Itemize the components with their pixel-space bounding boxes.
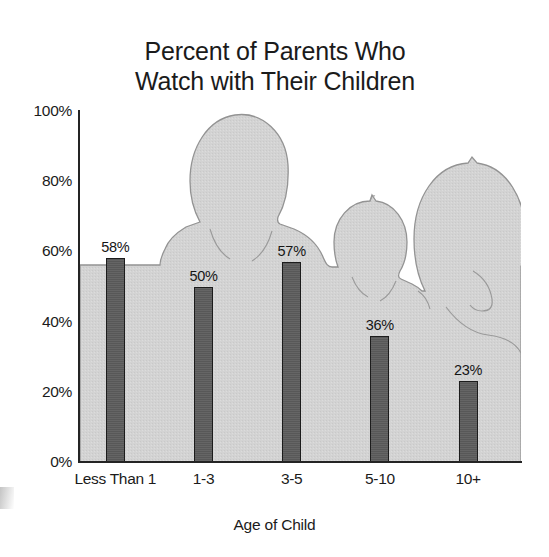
x-axis-title: Age of Child (0, 516, 549, 534)
y-tick-label-2: 60% (2, 242, 72, 260)
bar-value-label-1: 50% (173, 268, 233, 284)
bar-0 (106, 258, 125, 462)
bar-4 (459, 381, 478, 462)
chart-title-line-2: Watch with Their Children (90, 66, 460, 96)
y-tick-label-3: 40% (2, 313, 72, 331)
bar-value-label-0: 58% (85, 239, 145, 255)
chart-title: Percent of Parents Who Watch with Their … (90, 36, 460, 96)
y-tick-label-0: 100% (2, 102, 72, 120)
scan-edge-artifact (0, 487, 14, 509)
y-axis-line (78, 110, 80, 463)
y-tick-label-5: 0% (2, 453, 72, 471)
x-axis-line (78, 461, 522, 463)
bar-3 (370, 336, 389, 462)
bar-1 (194, 287, 213, 463)
bar-value-label-4: 23% (438, 362, 498, 378)
chart-title-line-1: Percent of Parents Who (90, 36, 460, 66)
y-tick-label-1: 80% (2, 172, 72, 190)
bar-2 (282, 262, 301, 462)
plot-area: 58% 50% 57% 36% 23% (80, 111, 521, 462)
bar-value-label-2: 57% (262, 243, 322, 259)
bar-value-label-3: 36% (350, 317, 410, 333)
y-tick-label-4: 20% (2, 383, 72, 401)
bar-chart: Percent of Parents Who Watch with Their … (0, 0, 549, 557)
x-tick-label-4: 10+ (408, 470, 528, 488)
